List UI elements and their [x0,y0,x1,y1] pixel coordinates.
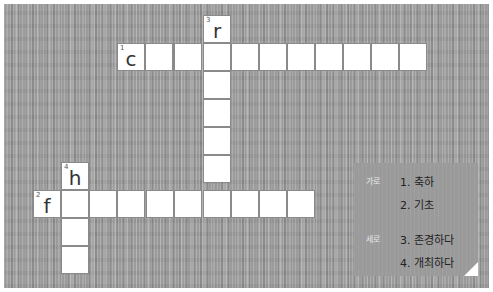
cell-1-across-10[interactable] [371,43,399,71]
across-label: 가로 [366,175,380,186]
cell-1-across-6[interactable] [259,43,287,71]
cell-2-across-6[interactable] [174,190,202,218]
cell-1-across-11[interactable] [399,43,427,71]
clue-across-1: 1. 축하 [400,173,434,189]
cell-letter: h [62,166,88,190]
cell-letter: f [34,194,60,218]
cell-4-down-3[interactable] [61,218,89,246]
folded-corner-icon [464,262,478,276]
cell-3-down-4[interactable] [203,99,231,127]
cell-2-across-8[interactable] [231,190,259,218]
clue-across-2: 2. 기초 [400,196,434,212]
cell-1-across-3[interactable] [174,43,202,71]
cell-letter: c [118,47,144,71]
cell-2-across-9[interactable] [259,190,287,218]
cell-1-across-7[interactable] [287,43,315,71]
cell-2-across-5[interactable] [146,190,174,218]
cell-4-down-1[interactable]: 4 h [61,162,89,190]
clue-down-3: 3. 존경하다 [400,231,454,247]
cell-3-down-6[interactable] [203,155,231,183]
cell-2-across-4[interactable] [117,190,145,218]
cell-2-across-10[interactable] [287,190,315,218]
cell-2-across-2[interactable] [61,190,89,218]
clue-panel: 가로 1. 축하 2. 기초 세로 3. 존경하다 4. 개최하다 [354,163,478,276]
cell-1-across-8[interactable] [315,43,343,71]
cell-2-across-3[interactable] [89,190,117,218]
cell-2-across-7[interactable] [203,190,231,218]
cell-1-across-5[interactable] [231,43,259,71]
clue-down-4: 4. 개최하다 [400,254,454,270]
cell-1-across-4[interactable] [203,43,231,71]
cell-3-down-1[interactable]: 3 r [203,15,231,43]
cell-1-across-1[interactable]: 1 c [117,43,145,71]
cell-2-across-1[interactable]: 2 f [33,190,61,218]
cell-4-down-4[interactable] [61,246,89,274]
cell-3-down-5[interactable] [203,127,231,155]
cell-letter: r [204,19,230,43]
cell-1-across-2[interactable] [145,43,173,71]
cell-1-across-9[interactable] [343,43,371,71]
down-label: 세로 [366,233,380,244]
cell-3-down-3[interactable] [203,71,231,99]
